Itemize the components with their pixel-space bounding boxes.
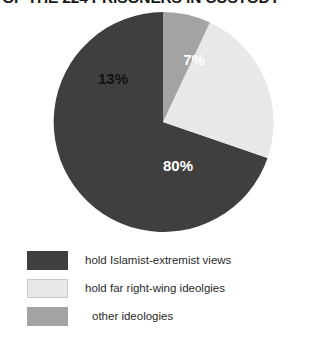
pie-label-other-ideologies: 7% xyxy=(183,51,205,68)
pie-label-far-right-wing: 13% xyxy=(98,70,128,87)
legend-item-other-ideologies[interactable]: other ideologies xyxy=(27,305,267,327)
pie-chart-svg: 7% 13% 80% xyxy=(53,6,273,238)
pie-chart: 7% 13% 80% xyxy=(53,6,273,238)
legend-swatch-islamist-extremist xyxy=(27,251,68,270)
legend-item-far-right-wing[interactable]: hold far right-wing ideolgies xyxy=(27,277,267,299)
pie-label-islamist-extremist: 80% xyxy=(163,157,193,174)
legend-swatch-far-right-wing xyxy=(27,279,68,298)
legend-item-islamist-extremist[interactable]: hold Islamist-extremist views xyxy=(27,249,267,271)
legend-label-islamist-extremist: hold Islamist-extremist views xyxy=(85,254,231,266)
legend-label-other-ideologies: other ideologies xyxy=(92,310,173,322)
legend-swatch-other-ideologies xyxy=(27,307,68,326)
chart-legend: hold Islamist-extremist views hold far r… xyxy=(27,249,267,333)
legend-label-far-right-wing: hold far right-wing ideolgies xyxy=(85,282,225,294)
